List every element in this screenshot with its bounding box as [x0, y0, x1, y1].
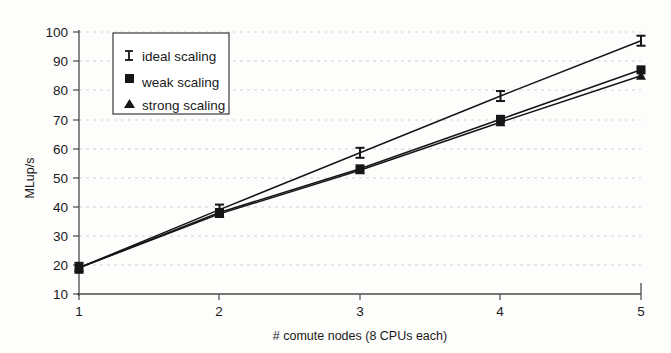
y-tick-label-80: 80 — [53, 83, 68, 98]
x-tick-label-5: 5 — [637, 304, 645, 319]
square-marker-icon — [125, 74, 134, 83]
ibeam-marker-icon — [637, 36, 646, 46]
y-axis-title: MLup/s — [23, 158, 37, 199]
y-tick-label-50: 50 — [53, 171, 68, 186]
chart-figure: 100 90 80 70 60 50 40 30 20 10 1 2 3 4 5 — [0, 0, 671, 353]
scaling-line-chart: 100 90 80 70 60 50 40 30 20 10 1 2 3 4 5 — [0, 0, 671, 353]
y-tick-label-30: 30 — [53, 229, 68, 244]
y-tick-label-40: 40 — [53, 200, 68, 215]
y-tick-label-10: 10 — [53, 287, 68, 302]
legend: ideal scaling weak scaling strong scalin… — [113, 33, 229, 114]
x-tick-label-2: 2 — [215, 304, 223, 319]
x-axis-ticks — [79, 294, 641, 300]
x-tick-label-4: 4 — [496, 304, 504, 319]
ibeam-marker-icon — [356, 148, 365, 158]
x-axis-tick-labels: 1 2 3 4 5 — [75, 304, 645, 319]
legend-label-weak-scaling: weak scaling — [141, 75, 219, 90]
legend-label-ideal-scaling: ideal scaling — [142, 49, 216, 64]
y-tick-label-70: 70 — [53, 113, 68, 128]
x-tick-label-1: 1 — [75, 304, 83, 319]
ibeam-marker-point — [637, 36, 646, 46]
x-axis-title: # comute nodes (8 CPUs each) — [273, 329, 447, 343]
ibeam-marker-icon — [496, 91, 505, 101]
y-tick-label-100: 100 — [45, 25, 68, 40]
y-tick-label-90: 90 — [53, 54, 68, 69]
y-tick-label-60: 60 — [53, 142, 68, 157]
y-tick-label-20: 20 — [53, 258, 68, 273]
y-axis-tick-labels: 100 90 80 70 60 50 40 30 20 10 — [45, 25, 68, 302]
x-tick-label-3: 3 — [356, 304, 364, 319]
y-axis-ticks — [73, 32, 79, 294]
legend-label-strong-scaling: strong scaling — [142, 98, 225, 113]
ibeam-marker-point — [356, 148, 365, 158]
ibeam-marker-point — [496, 91, 505, 101]
